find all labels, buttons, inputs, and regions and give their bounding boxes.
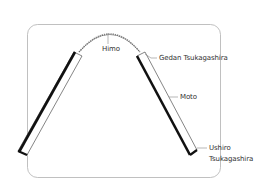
- label-ushiro-line2: Tsukagashira: [209, 155, 253, 163]
- label-himo: Himo: [102, 45, 120, 53]
- right-stick: [137, 52, 197, 155]
- label-gedan-tsukagashira: Gedan Tsukagashira: [159, 54, 228, 62]
- label-moto: Moto: [180, 93, 197, 101]
- label-ushiro-line1: Ushiro: [209, 144, 231, 152]
